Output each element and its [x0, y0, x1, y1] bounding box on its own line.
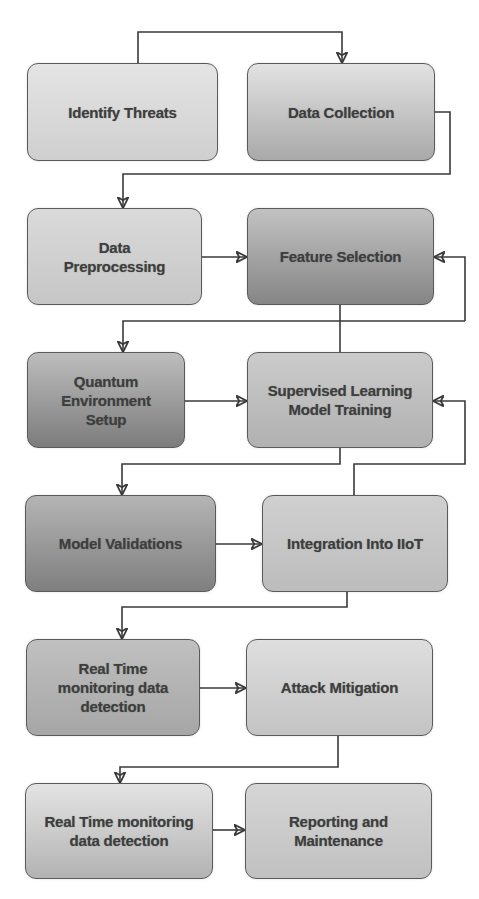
node-integration-into-iiot: Integration Into IIoT — [262, 495, 448, 592]
node-attack-mitigation: Attack Mitigation — [246, 639, 433, 736]
flowchart-canvas: Identify Threats Data Collection Data Pr… — [0, 0, 479, 899]
node-label: Quantum Environment Setup — [57, 372, 154, 429]
node-data-collection: Data Collection — [247, 63, 435, 161]
node-quantum-environment-setup: Quantum Environment Setup — [27, 352, 185, 448]
node-reporting-maintenance: Reporting and Maintenance — [245, 783, 432, 879]
node-data-preprocessing: Data Preprocessing — [27, 208, 202, 305]
connector-iiot-to-realtime — [122, 592, 347, 638]
node-real-time-monitoring-2: Real Time monitoring data detection — [25, 783, 213, 879]
connector-supervised-to-validations — [122, 448, 340, 494]
node-supervised-learning: Supervised Learning Model Training — [247, 352, 433, 448]
node-label: Attack Mitigation — [277, 678, 402, 697]
node-identify-threats: Identify Threats — [27, 63, 218, 161]
node-label: Real Time monitoring data detection — [54, 659, 172, 716]
connector-feedback-to-feature — [435, 257, 465, 321]
connector-feature-to-quantum — [123, 321, 465, 351]
node-feature-selection: Feature Selection — [247, 208, 434, 305]
node-label: Model Validations — [55, 534, 186, 553]
node-real-time-monitoring: Real Time monitoring data detection — [26, 639, 200, 736]
connector-mitigation-to-realtime2 — [120, 736, 338, 782]
node-model-validations: Model Validations — [25, 495, 216, 592]
connector-identify-to-collection — [138, 32, 342, 63]
node-label: Data Collection — [284, 103, 398, 122]
node-label: Integration Into IIoT — [283, 534, 427, 553]
node-label: Real Time monitoring data detection — [40, 812, 197, 850]
node-label: Supervised Learning Model Training — [264, 381, 417, 419]
node-label: Identify Threats — [64, 103, 181, 122]
node-label: Data Preprocessing — [60, 238, 170, 276]
node-label: Feature Selection — [276, 247, 406, 266]
node-label: Reporting and Maintenance — [285, 812, 392, 850]
